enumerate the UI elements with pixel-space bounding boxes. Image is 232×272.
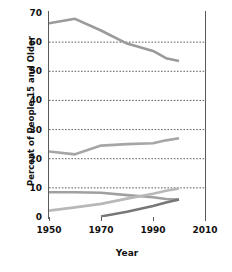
y-tick-label-0: 0 [14,213,42,222]
x-tick-mark-1950 [49,217,50,221]
y-tick-label-10: 10 [14,184,42,193]
x-tick-mark-1990 [153,217,154,221]
plot-svg [49,13,205,217]
line-chart: Percent of People 15 and Older 70 60 50 … [0,0,232,272]
y-tick-label-40: 40 [14,96,42,105]
line-series-1 [49,19,179,61]
x-tick-label-1970: 1970 [81,226,121,235]
y-tick-label-20: 20 [14,155,42,164]
plot-area [49,13,205,217]
y-tick-label-70: 70 [14,9,42,18]
y-tick-label-60: 60 [14,38,42,47]
x-tick-label-1950: 1950 [29,226,69,235]
x-tick-label-1990: 1990 [133,226,173,235]
x-tick-mark-1970 [101,217,102,221]
x-tick-label-2010: 2010 [185,226,225,235]
line-series-2 [49,138,179,154]
y-tick-label-50: 50 [14,67,42,76]
x-tick-mark-2010 [205,217,206,221]
x-axis-title: Year [49,248,205,258]
y-tick-label-30: 30 [14,126,42,135]
